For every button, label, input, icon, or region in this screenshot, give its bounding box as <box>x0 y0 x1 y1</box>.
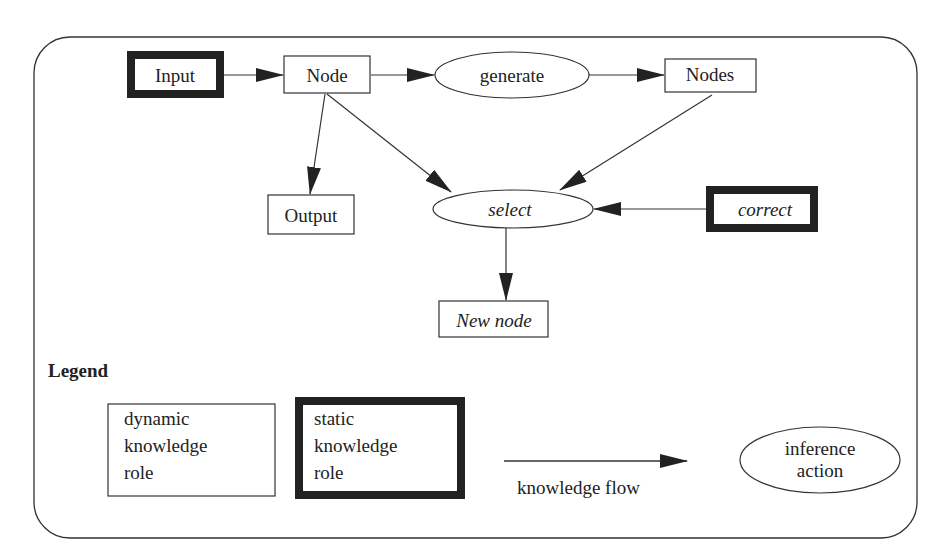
legend-static-text: static knowledge role <box>314 405 397 486</box>
input-label: Input <box>155 66 195 85</box>
node-label: Node <box>306 66 347 85</box>
legend-dynamic-line1: dynamic <box>124 405 207 432</box>
arrow-node-to-select <box>327 94 451 192</box>
generate-label: generate <box>480 66 544 85</box>
legend-static-line2: knowledge <box>314 432 397 459</box>
legend-dynamic-line2: knowledge <box>124 432 207 459</box>
legend-inference-line1: inference <box>785 438 856 460</box>
new-node-label: New node <box>456 311 531 330</box>
nodes-label: Nodes <box>686 65 735 84</box>
arrow-node-to-output <box>310 94 325 194</box>
legend-static-line1: static <box>314 405 397 432</box>
legend-inference-text: inference action <box>785 438 856 482</box>
legend-static-line3: role <box>314 459 397 486</box>
legend-title: Legend <box>48 361 108 380</box>
correct-label: correct <box>738 200 792 219</box>
select-label: select <box>488 200 531 219</box>
arrow-nodes-to-select <box>560 95 712 190</box>
legend-inference-line2: action <box>785 460 856 482</box>
legend-dynamic-line3: role <box>124 459 207 486</box>
legend-flow-label: knowledge flow <box>517 478 640 497</box>
output-label: Output <box>285 206 338 225</box>
legend-dynamic-text: dynamic knowledge role <box>124 405 207 486</box>
